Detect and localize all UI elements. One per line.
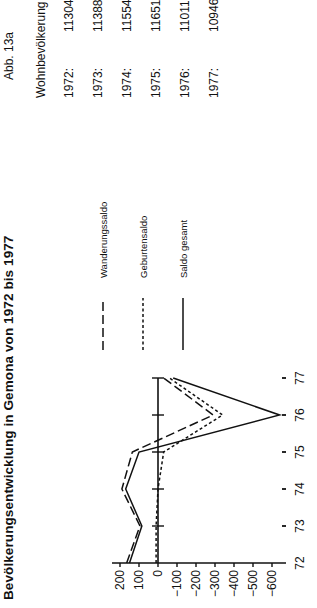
y-tick-label: −100 <box>170 570 184 597</box>
x-tick-label: 73 <box>293 519 307 533</box>
y-tick-label: 0 <box>151 570 165 577</box>
series-line-wanderungssaldo <box>122 378 213 563</box>
series-line-geburtensaldo <box>156 378 223 563</box>
y-tick-label: 100 <box>132 570 146 590</box>
x-tick-label: 74 <box>293 482 307 496</box>
rotated-page: Bevölkerungsentwicklung in Gemona von 19… <box>0 0 317 608</box>
x-tick-label: 77 <box>293 371 307 385</box>
x-tick-label: 76 <box>293 408 307 422</box>
legend-label: Wanderungssaldo <box>98 202 109 278</box>
y-tick-label: −200 <box>189 570 203 597</box>
chart: 2001000−100−200−300−400−500−600727374757… <box>0 0 317 608</box>
y-tick-label: −500 <box>246 570 260 597</box>
x-tick-label: 75 <box>293 445 307 459</box>
y-tick-label: −400 <box>227 570 241 597</box>
y-tick-label: −600 <box>265 570 279 597</box>
y-tick-label: 200 <box>113 570 127 590</box>
y-tick-label: −300 <box>208 570 222 597</box>
legend-label: Saldo gesamt <box>178 220 189 278</box>
legend-label: Geburtensaldo <box>138 216 149 278</box>
series-line-saldo-gesamt <box>126 378 280 563</box>
x-tick-label: 72 <box>293 556 307 570</box>
